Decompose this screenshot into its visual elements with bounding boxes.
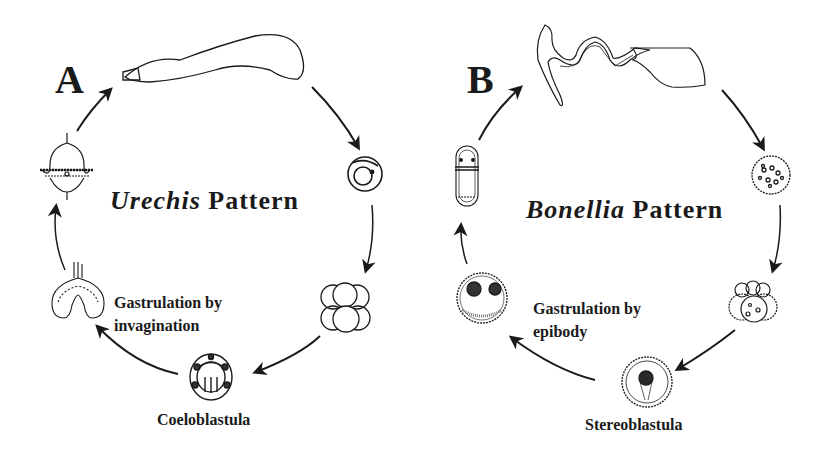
- arrow-cleavage-to-blastula: [256, 336, 320, 372]
- panel-b-title-genus: Bonellia: [526, 195, 625, 224]
- cleavage-embryo-icon: [321, 283, 370, 332]
- panel-b-blastula-label: Stereoblastula: [585, 413, 682, 436]
- urechis-adult-worm-icon: [123, 35, 304, 82]
- yolk-egg-icon: [752, 156, 790, 194]
- panel-a-letter: A: [55, 56, 84, 103]
- panel-a-cycle: [40, 35, 382, 400]
- panel-a-blastula-label: Coeloblastula: [157, 408, 250, 431]
- arrow-gastrula-to-trochophore: [55, 207, 65, 270]
- panel-b-gastrulation-line2: epibody: [533, 320, 641, 343]
- panel-a-gastrulation-label: Gastrulation by invagination: [114, 291, 222, 337]
- gastrula-invagination-icon: [52, 262, 104, 318]
- arrow-gastrula-to-larva: [461, 226, 467, 264]
- arrow-blastula-to-gastrula: [512, 338, 595, 380]
- arrow-adult-to-egg: [722, 90, 763, 148]
- panel-b-gastrulation-label: Gastrulation by epibody: [533, 297, 641, 343]
- elongate-larva-icon: [455, 146, 479, 206]
- panel-a-gastrulation-line2: invagination: [114, 314, 222, 337]
- trochophore-larva-icon: [40, 133, 94, 200]
- panel-a-gastrulation-line1: Gastrulation by: [114, 291, 222, 314]
- egg-icon: [348, 157, 382, 191]
- panel-b-letter: B: [467, 56, 494, 103]
- panel-b-title-rest: Pattern: [625, 195, 723, 224]
- coeloblastula-icon: [190, 354, 232, 400]
- unequal-cleavage-icon: [729, 281, 777, 322]
- gastrula-epiboly-icon: [457, 273, 507, 323]
- arrow-adult-to-egg: [312, 87, 358, 147]
- stereoblastula-icon: [622, 357, 672, 407]
- bonellia-adult-worm-icon: [537, 25, 705, 106]
- arrow-cleavage-to-blastula: [678, 330, 735, 369]
- panel-a-title: Urechis Pattern: [110, 186, 299, 216]
- arrow-egg-to-cleavage: [366, 205, 373, 270]
- panel-a-title-genus: Urechis: [110, 186, 201, 215]
- panel-a-title-rest: Pattern: [201, 186, 299, 215]
- panel-b-gastrulation-line1: Gastrulation by: [533, 297, 641, 320]
- panel-b-title: Bonellia Pattern: [526, 195, 723, 225]
- arrow-egg-to-cleavage: [773, 205, 780, 270]
